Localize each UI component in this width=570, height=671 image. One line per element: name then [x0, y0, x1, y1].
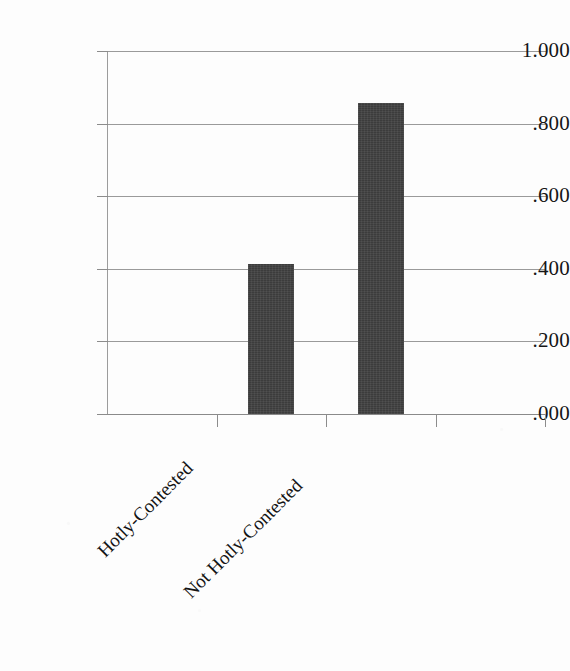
y-tick-0-400 [97, 269, 108, 270]
y-tick-label-0-200: .200 [496, 330, 570, 351]
y-tick-0-000 [97, 414, 108, 415]
gridline-1-000 [107, 51, 546, 52]
y-tick-label-0-600: .600 [496, 185, 570, 206]
y-tick-label-0-000: .000 [496, 403, 570, 424]
bar-not-hotly-contested [358, 103, 404, 415]
x-tick-label-not-hotly-contested: Not Hotly-Contested [180, 476, 306, 602]
y-tick-label-0-800: .800 [496, 113, 570, 134]
x-tick-3 [436, 414, 437, 427]
bar-hotly-contested [248, 264, 294, 414]
gridline-0-200 [107, 341, 546, 342]
y-tick-label-0-400: .400 [496, 258, 570, 279]
x-tick-1 [217, 414, 218, 427]
gridline-0-400 [107, 269, 546, 270]
x-tick-2 [326, 414, 327, 427]
bar-chart-figure: 1.000 .800 .600 .400 .200 .000 Hotly-Con… [0, 0, 570, 671]
gridline-0-600 [107, 196, 546, 197]
gridline-0-800 [107, 124, 546, 125]
y-tick-label-1-000: 1.000 [496, 40, 570, 61]
y-axis-line [107, 51, 108, 414]
y-tick-0-800 [97, 124, 108, 125]
y-tick-1-000 [97, 51, 108, 52]
x-tick-label-hotly-contested: Hotly-Contested [94, 458, 197, 561]
plot-area [107, 51, 546, 414]
x-tick-right-end [545, 414, 546, 427]
y-tick-0-200 [97, 341, 108, 342]
y-tick-0-600 [97, 196, 108, 197]
